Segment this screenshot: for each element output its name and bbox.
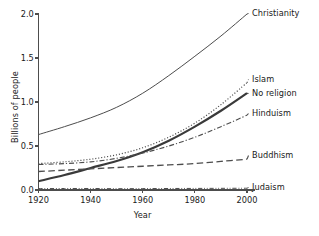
leader-line-judaism — [247, 188, 249, 189]
series-line-no-religion — [39, 93, 248, 181]
series-line-christianity — [39, 14, 248, 135]
leader-line-christianity — [247, 14, 249, 15]
series-line-hinduism — [39, 115, 248, 164]
series-line-buddhism — [39, 159, 248, 171]
leader-line-buddhism — [247, 156, 249, 160]
leader-line-islam — [247, 80, 249, 83]
plot-area — [0, 0, 319, 236]
religion-population-line-chart: Billions of people Year 0.0 0.5 1.0 1.5 … — [0, 0, 319, 236]
leader-line-hinduism — [247, 114, 249, 116]
data-series-lines — [39, 14, 248, 189]
label-leader-lines — [247, 14, 249, 189]
